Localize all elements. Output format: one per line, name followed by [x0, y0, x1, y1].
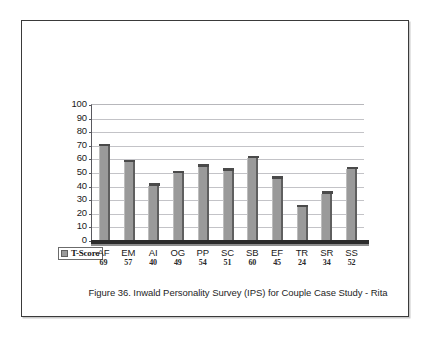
category-cell: EM57: [116, 247, 141, 268]
bar-slot: [290, 105, 315, 240]
bar-slot: [339, 105, 364, 240]
bar-top-cap: [272, 176, 283, 179]
category-label: SR: [314, 247, 339, 258]
bar[interactable]: [124, 162, 135, 240]
category-cell: SR34: [314, 247, 339, 268]
category-label: EM: [116, 247, 141, 258]
category-label: PP: [190, 247, 215, 258]
y-tick-label: 40: [77, 181, 87, 191]
bar-chart: 1009080706050403020100 T-Score AF69EM57A…: [58, 84, 376, 266]
bar-slot: [191, 105, 216, 240]
bar-slot: [216, 105, 241, 240]
bar[interactable]: [297, 207, 308, 240]
category-cell: AF69: [91, 247, 116, 268]
bar-slot: [141, 105, 166, 240]
bar-slot: [265, 105, 290, 240]
category-label: EF: [265, 247, 290, 258]
bar[interactable]: [148, 186, 159, 240]
category-value-label: 60: [240, 258, 265, 268]
category-value-label: 24: [290, 258, 315, 268]
category-label: TR: [290, 247, 315, 258]
y-tick-label: 10: [77, 222, 87, 232]
bar[interactable]: [321, 194, 332, 240]
y-tick-label: 0: [82, 235, 87, 245]
bar-top-cap: [99, 144, 110, 147]
bars-layer: [92, 105, 364, 240]
x-axis-category-labels: AF69EM57AI40OG49PP54SC51SB60EF45TR24SR34…: [91, 247, 364, 268]
bar-top-cap: [223, 168, 234, 171]
y-tick-label: 80: [77, 126, 87, 136]
bar-top-cap: [124, 160, 135, 163]
category-cell: SS52: [339, 247, 364, 268]
category-value-label: 51: [215, 258, 240, 268]
bar[interactable]: [99, 146, 110, 240]
bar[interactable]: [223, 171, 234, 240]
bar[interactable]: [198, 167, 209, 240]
legend-swatch-icon: [61, 250, 68, 257]
y-axis: 1009080706050403020100: [58, 104, 89, 240]
figure-page-frame: 1009080706050403020100 T-Score AF69EM57A…: [21, 20, 409, 317]
category-value-label: 34: [314, 258, 339, 268]
figure-caption: Figure 36. Inwald Personality Survey (IP…: [58, 287, 418, 299]
bar[interactable]: [346, 169, 357, 240]
bar[interactable]: [173, 173, 184, 240]
category-cell: SC51: [215, 247, 240, 268]
category-value-label: 45: [265, 258, 290, 268]
category-cell: TR24: [290, 247, 315, 268]
bar[interactable]: [247, 158, 258, 240]
category-label: OG: [165, 247, 190, 258]
y-tick-label: 100: [71, 99, 87, 109]
category-value-label: 52: [339, 258, 364, 268]
category-label: SB: [240, 247, 265, 258]
y-tick-label: 90: [77, 113, 87, 123]
category-value-label: 54: [190, 258, 215, 268]
bar[interactable]: [272, 179, 283, 240]
category-cell: EF45: [265, 247, 290, 268]
bar-slot: [92, 105, 117, 240]
category-cell: OG49: [165, 247, 190, 268]
plot-area: [91, 104, 364, 240]
bar-top-cap: [322, 191, 333, 194]
y-tick-label: 60: [77, 154, 87, 164]
y-tick-label: 20: [77, 208, 87, 218]
y-tick-label: 30: [77, 194, 87, 204]
bar-slot: [315, 105, 340, 240]
bar-slot: [240, 105, 265, 240]
bar-top-cap: [347, 167, 358, 170]
bar-top-cap: [297, 205, 308, 208]
category-cell: PP54: [190, 247, 215, 268]
category-label: SC: [215, 247, 240, 258]
category-cell: AI40: [141, 247, 166, 268]
y-tick-label: 50: [77, 167, 87, 177]
bar-top-cap: [248, 156, 259, 159]
bar-top-cap: [198, 164, 209, 167]
category-cell: SB60: [240, 247, 265, 268]
bar-top-cap: [149, 183, 160, 186]
axis-baseline-shadow: [91, 244, 369, 246]
category-value-label: 49: [165, 258, 190, 268]
category-value-label: 57: [116, 258, 141, 268]
bar-top-cap: [173, 171, 184, 174]
category-label: AI: [141, 247, 166, 258]
category-value-label: 40: [141, 258, 166, 268]
category-label: SS: [339, 247, 364, 258]
category-label: AF: [91, 247, 116, 258]
y-tick-label: 70: [77, 140, 87, 150]
category-value-label: 69: [91, 258, 116, 268]
bar-slot: [166, 105, 191, 240]
bar-slot: [117, 105, 142, 240]
